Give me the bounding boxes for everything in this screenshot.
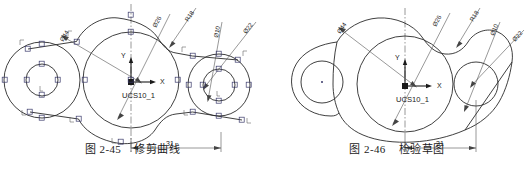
figure-2-46-canvas: Y X UCS10_1 Ø44 Ø26 R18 [265, 0, 529, 158]
left-lobe-arc [292, 42, 339, 116]
dim-leader-dia26 [392, 13, 450, 126]
figure-2-46-caption: 图 2-46 检验草图 [265, 140, 529, 156]
dim-label-dia22: Ø22 [511, 29, 524, 43]
dim-leader-dia26 [117, 14, 170, 120]
ucs-label: UCS10_1 [396, 95, 429, 104]
figure-2-45-title: 修剪曲线 [134, 143, 180, 155]
dim-label-r18: R18 [183, 9, 195, 23]
dim-label-dia22: Ø22 [241, 21, 254, 35]
dim-label-dia44: Ø44 [58, 28, 70, 42]
axis-label-x: X [437, 82, 442, 89]
dim-label-dia44: Ø44 [335, 21, 348, 35]
figure-2-45-canvas: Y X UCS10_1 Ø44 Ø26 R18 [0, 0, 265, 158]
dim-label-dia10: Ø10 [212, 25, 221, 38]
part-outline [333, 18, 512, 142]
dim-label-dia10: Ø10 [488, 22, 499, 36]
construction-markers [20, 31, 251, 143]
left-bore-center-dot [321, 81, 323, 83]
axis-label-x: X [160, 78, 165, 85]
ucs-icon [402, 59, 432, 89]
axis-label-y: Y [395, 54, 400, 61]
left-lobe-circle [4, 42, 80, 118]
right-bore-circle [454, 62, 498, 106]
right-lobe-circle [188, 54, 250, 116]
figure-2-46-title: 检验草图 [399, 143, 445, 155]
tangent-lower-right [465, 62, 512, 130]
dim-label-dia26: Ø26 [151, 14, 163, 28]
ucs-icon [128, 57, 156, 85]
figure-2-46: Y X UCS10_1 Ø44 Ø26 R18 [265, 0, 529, 158]
figure-2-45-number: 图 2-45 [85, 143, 121, 155]
drawing-sheet: Y X UCS10_1 Ø44 Ø26 R18 [0, 0, 529, 184]
figure-2-45: Y X UCS10_1 Ø44 Ø26 R18 [0, 0, 265, 158]
axis-label-y: Y [121, 52, 126, 59]
dim-label-dia26: Ø26 [431, 13, 443, 27]
figure-2-46-number: 图 2-46 [349, 143, 385, 155]
ucs-label: UCS10_1 [122, 91, 155, 100]
figure-2-45-caption: 图 2-45 修剪曲线 [0, 140, 265, 156]
